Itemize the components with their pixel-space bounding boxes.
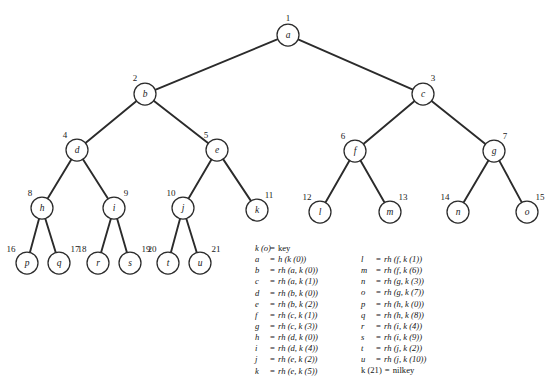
tree-node-r[interactable]: r [87,252,109,274]
legend-left-e-row: e=rh (b, k (2)) [255,299,318,310]
tree-node-c[interactable]: c [412,83,434,105]
legend-right-t-equals: = [376,343,384,354]
legend-right-o-row: o=rh (g, k (7)) [361,287,426,298]
legend-key-header-symbol: k (o) [255,243,270,254]
node-number-g: 7 [503,131,508,141]
legend-left-a-row: a=h (k (0)) [255,254,318,265]
legend-left-j-row: j=rh (e, k (2)) [255,354,318,365]
legend-right-t-row: t=rh (j, k (2)) [361,343,426,354]
legend-left-j-definition: rh (e, k (2)) [278,354,317,365]
legend-left-f-symbol: f [255,310,270,321]
legend-left-b-row: b=rh (a, k (0)) [255,265,318,276]
node-number-m: 13 [399,192,409,202]
legend-right-k21-symbol: k (21) [361,365,382,376]
tree-node-b[interactable]: b [134,83,156,105]
node-label-p: p [24,258,30,268]
node-label-a: a [286,30,291,40]
node-label-h: h [40,203,45,213]
node-label-q: q [57,258,62,268]
legend-left-i-equals: = [270,343,278,354]
tree-node-l[interactable]: l [309,201,331,223]
legend-right-column: l=rh (f, k (1))m=rh (f, k (6))n=rh (g, k… [361,254,426,377]
tree-node-a[interactable]: a [277,24,299,46]
node-label-o: o [525,207,530,217]
legend-left-d-row: d=rh (b, k (0)) [255,288,318,299]
tree-node-g[interactable]: g [483,140,505,162]
node-label-u: u [198,258,203,268]
legend-right-p-definition: rh (h, k (0)) [384,299,424,310]
legend-right-l-definition: rh (f, k (1)) [384,254,422,265]
node-number-f: 6 [341,131,346,141]
legend-right-m-row: m=rh (f, k (6)) [361,265,426,276]
node-number-h: 8 [28,188,33,198]
legend-left-c-row: c=rh (a, k (1)) [255,276,318,287]
legend-left-h-symbol: h [255,332,270,343]
legend-right-o-definition: rh (g, k (7)) [384,287,424,298]
legend-right-r-symbol: r [361,321,376,332]
legend-right-s-symbol: s [361,332,376,343]
legend-right-l-row: l=rh (f, k (1)) [361,254,426,265]
tree-node-k[interactable]: k [246,199,268,221]
tree-edge-b-d [85,101,136,143]
legend-left-g-equals: = [270,321,278,332]
node-number-l: 12 [303,192,312,202]
legend-right-q-definition: rh (h, k (8)) [384,310,424,321]
legend-left-f-definition: rh (c, k (1)) [278,310,317,321]
node-number-a: 1 [286,13,291,23]
node-number-c: 3 [431,73,436,83]
legend-left-j-equals: = [270,354,278,365]
tree-node-d[interactable]: d [66,139,88,161]
legend-left-c-equals: = [270,276,278,287]
tree-node-h[interactable]: h [31,197,53,219]
tree-edge-g-n [464,160,489,202]
tree-node-j[interactable]: j [172,197,194,219]
tree-node-t[interactable]: t [157,252,179,274]
tree-edge-i-r [101,219,111,253]
legend-right-k21-equals: = [385,365,393,376]
legend-right-s-row: s=rh (i, k (9)) [361,332,426,343]
legend-right-q-row: q=rh (h, k (8)) [361,310,426,321]
legend-left-j-symbol: j [255,354,270,365]
legend-right-p-row: p=rh (h, k (0)) [361,299,426,310]
legend-right-r-definition: rh (i, k (4)) [384,321,422,332]
tree-node-p[interactable]: p [16,252,38,274]
legend-right-m-equals: = [376,265,384,276]
tree-node-e[interactable]: e [206,139,228,161]
tree-node-f[interactable]: f [344,140,366,162]
legend-right-n-symbol: n [361,276,376,287]
tree-node-n[interactable]: n [447,201,469,223]
tree-edge-a-c [298,39,413,89]
node-number-p: 16 [7,244,17,254]
legend-left-k-symbol: k [255,366,270,377]
tree-node-u[interactable]: u [189,252,211,274]
legend-right-n-definition: rh (g, k (3)) [384,276,424,287]
legend-right-l-symbol: l [361,254,376,265]
tree-edge-h-q [45,219,56,253]
legend-left-b-definition: rh (a, k (0)) [278,265,318,276]
legend-left-g-definition: rh (c, k (3)) [278,321,317,332]
legend-left-d-symbol: d [255,288,270,299]
tree-node-m[interactable]: m [379,201,401,223]
legend-left-k-row: k=rh (e, k (5)) [255,366,318,377]
node-number-r: 18 [78,244,88,254]
node-label-l: l [319,207,322,217]
tree-node-q[interactable]: q [48,252,70,274]
legend-key-header-definition: key [278,243,290,254]
legend-right-u-symbol: u [361,354,376,365]
node-label-n: n [456,207,461,217]
node-number-k: 11 [265,190,274,200]
legend-left-i-definition: rh (d, k (4)) [278,343,318,354]
tree-node-i[interactable]: i [103,197,125,219]
tree-edge-e-k [223,159,251,201]
legend-left-a-equals: = [270,254,278,265]
tree-node-s[interactable]: s [119,252,141,274]
legend-left-g-row: g=rh (c, k (3)) [255,321,318,332]
node-label-r: r [96,258,100,268]
tree-edge-f-m [360,161,384,203]
legend-right-o-symbol: o [361,287,376,298]
tree-node-o[interactable]: o [516,201,538,223]
legend-right-s-definition: rh (i, k (9)) [384,332,422,343]
tree-edge-h-p [30,219,39,253]
legend-right-m-definition: rh (f, k (6)) [384,265,422,276]
legend-right-l-equals: = [376,254,384,265]
